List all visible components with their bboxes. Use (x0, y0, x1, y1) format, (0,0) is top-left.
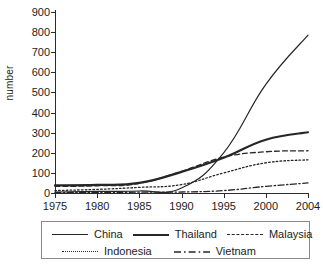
x-tick-label: 1990 (169, 200, 193, 212)
legend-item-malaysia[interactable]: Malaysia (227, 228, 312, 240)
x-tick-label: 1975 (43, 200, 67, 212)
x-tick-mark (266, 194, 267, 198)
y-tick-label: 900 (32, 6, 50, 18)
y-axis-label: number (4, 87, 15, 101)
series-lines (55, 12, 308, 193)
legend-swatch-icon (62, 247, 98, 255)
legend-row: ChinaThailandMalaysia (48, 225, 303, 242)
series-line-china (55, 35, 308, 192)
legend-swatch-icon (227, 230, 263, 238)
y-tick-label: 400 (32, 107, 50, 119)
chart-legend: ChinaThailandMalaysia IndonesiaVietnam (41, 221, 310, 259)
series-line-thailand (55, 132, 308, 185)
x-tick-label: 2004 (296, 200, 320, 212)
legend-item-china[interactable]: China (52, 228, 123, 240)
y-tick-label: 300 (32, 127, 50, 139)
y-tick-label: 200 (32, 147, 50, 159)
legend-item-thailand[interactable]: Thailand (133, 228, 217, 240)
legend-swatch-icon (52, 230, 88, 238)
x-tick-label: 1980 (85, 200, 109, 212)
x-axis-ticks: 1975198019851990199520002004 (55, 194, 308, 214)
line-chart: number 9008007006005004003002001000 1975… (0, 0, 323, 265)
legend-row: IndonesiaVietnam (48, 242, 303, 259)
y-tick-label: 500 (32, 86, 50, 98)
y-tick-label: 0 (44, 187, 50, 199)
plot-area: 9008007006005004003002001000 (55, 12, 308, 193)
x-tick-mark (139, 194, 140, 198)
legend-swatch-icon (133, 230, 169, 238)
x-tick-label: 1995 (211, 200, 235, 212)
legend-label: Indonesia (104, 245, 152, 257)
series-line-malaysia (55, 151, 308, 187)
y-tick-label: 700 (32, 46, 50, 58)
y-tick-label: 600 (32, 66, 50, 78)
x-tick-label: 2000 (254, 200, 278, 212)
y-tick-label: 100 (32, 167, 50, 179)
legend-label: Malaysia (269, 228, 312, 240)
x-tick-mark (308, 194, 309, 198)
x-tick-mark (97, 194, 98, 198)
y-tick-label: 800 (32, 26, 50, 38)
x-tick-mark (182, 194, 183, 198)
legend-swatch-icon (174, 247, 210, 255)
legend-label: Vietnam (216, 245, 256, 257)
x-tick-mark (224, 194, 225, 198)
legend-label: Thailand (175, 228, 217, 240)
x-tick-mark (55, 194, 56, 198)
legend-item-vietnam[interactable]: Vietnam (174, 245, 256, 257)
legend-item-indonesia[interactable]: Indonesia (62, 245, 152, 257)
x-tick-label: 1985 (127, 200, 151, 212)
legend-label: China (94, 228, 123, 240)
